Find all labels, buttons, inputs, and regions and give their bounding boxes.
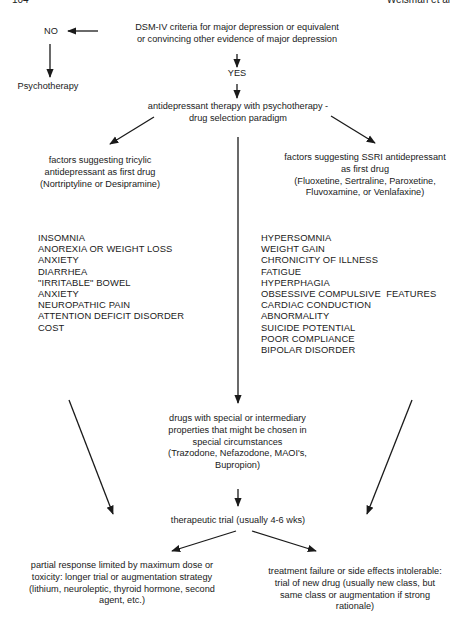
arrow-trial-to-partial	[172, 531, 236, 551]
node-ssri-line: Fluvoxamine, or Venlafaxine)	[275, 187, 455, 199]
tricyclic-factor: INSOMNIA	[38, 232, 184, 243]
node-no: NO	[38, 26, 64, 38]
tricyclic-factor: ANXIETY	[38, 254, 184, 265]
ssri-factor-list: HYPERSOMNIA WEIGHT GAIN CHRONICITY OF IL…	[261, 232, 436, 355]
node-special-line: properties that might be chosen in	[155, 425, 320, 437]
node-failure: treatment failure or side effects intole…	[252, 566, 458, 613]
node-partial-line: (lithium, neuroleptic, thyroid hormone, …	[12, 584, 232, 596]
tricyclic-factor: "IRRITABLE" BOWEL	[38, 277, 184, 288]
ssri-factor: SUICIDE POTENTIAL	[261, 322, 436, 333]
node-tricyclic-line: (Nortriptyline or Desipramine)	[30, 179, 170, 191]
node-criteria: DSM-IV criteria for major depression or …	[112, 22, 362, 46]
arrow-tricyclic-to-trial	[69, 400, 113, 514]
node-psychotherapy: Psychotherapy	[10, 81, 86, 93]
node-partial-line: toxicity: longer trial or augmentation s…	[12, 572, 232, 584]
tricyclic-factor: ATTENTION DEFICIT DISORDER	[38, 310, 184, 321]
node-tricyclic: factors suggesting tricylic antidepressa…	[30, 155, 170, 190]
ssri-factor: CARDIAC CONDUCTION	[261, 299, 436, 310]
arrow-trial-to-failure	[252, 531, 316, 551]
node-criteria-line: or convincing other evidence of major de…	[112, 34, 362, 46]
tricyclic-factor: NEUROPATHIC PAIN	[38, 299, 184, 310]
ssri-factor: HYPERSOMNIA	[261, 232, 436, 243]
node-ssri-line: (Fluoxetine, Sertraline, Paroxetine,	[275, 176, 455, 188]
ssri-factor: CHRONICITY OF ILLNESS	[261, 254, 436, 265]
node-ssri-line: factors suggesting SSRI antidepressant	[275, 152, 455, 164]
node-special: drugs with special or intermediary prope…	[155, 413, 320, 472]
node-failure-line: rationale)	[252, 601, 458, 613]
node-special-line: special circumstances	[155, 437, 320, 449]
node-trial: therapeutic trial (usually 4-6 wks)	[140, 515, 336, 527]
node-special-line: Bupropion)	[155, 460, 320, 472]
tricyclic-factor: COST	[38, 322, 184, 333]
node-failure-line: same class or augmentation if strong	[252, 590, 458, 602]
ssri-factor: POOR COMPLIANCE	[261, 333, 436, 344]
node-ssri: factors suggesting SSRI antidepressant a…	[275, 152, 455, 199]
tricyclic-factor: DIARRHEA	[38, 266, 184, 277]
node-special-line: (Trazodone, Nefazodone, MAOI's,	[155, 448, 320, 460]
node-failure-line: trial of new drug (usually new class, bu…	[252, 578, 458, 590]
node-failure-line: treatment failure or side effects intole…	[252, 566, 458, 578]
ssri-factor: HYPERPHAGIA	[261, 277, 436, 288]
tricyclic-factor: ANOREXIA OR WEIGHT LOSS	[38, 243, 184, 254]
tricyclic-factor-list: INSOMNIA ANOREXIA OR WEIGHT LOSS ANXIETY…	[38, 232, 184, 333]
ssri-factor: BIPOLAR DISORDER	[261, 344, 436, 355]
node-paradigm-line: antidepressant therapy with psychotherap…	[136, 101, 340, 113]
ssri-factor: OBSESSIVE COMPULSIVE FEATURES	[261, 288, 436, 299]
node-paradigm: antidepressant therapy with psychotherap…	[136, 101, 340, 125]
ssri-factor: WEIGHT GAIN	[261, 243, 436, 254]
arrow-ssri-to-trial	[367, 400, 412, 514]
node-paradigm-line: drug selection paradigm	[136, 113, 340, 125]
ssri-factor: ABNORMALITY	[261, 310, 436, 321]
node-tricyclic-line: factors suggesting tricylic	[30, 155, 170, 167]
tricyclic-factor: ANXIETY	[38, 288, 184, 299]
node-partial-line: agent, etc.)	[12, 595, 232, 607]
node-criteria-line: DSM-IV criteria for major depression or …	[112, 22, 362, 34]
ssri-factor: FATIGUE	[261, 266, 436, 277]
node-partial: partial response limited by maximum dose…	[12, 560, 232, 607]
node-ssri-line: as first drug	[275, 164, 455, 176]
node-yes: YES	[222, 68, 252, 80]
node-partial-line: partial response limited by maximum dose…	[12, 560, 232, 572]
node-special-line: drugs with special or intermediary	[155, 413, 320, 425]
node-tricyclic-line: antidepressant as first drug	[30, 167, 170, 179]
